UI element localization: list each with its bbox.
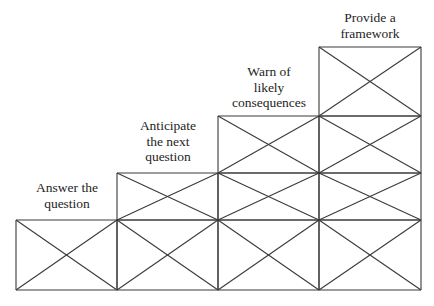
label-line: question — [113, 149, 223, 165]
label-line: likely — [214, 80, 324, 96]
step-label-anticipate-the-next-question: Anticipate the next question — [113, 118, 223, 165]
label-line: question — [12, 196, 122, 212]
label-line: Warn of — [214, 64, 324, 80]
staircase-diagram: Answer the question Anticipate the next … — [0, 0, 434, 306]
label-line: Provide a — [315, 10, 425, 26]
label-line: Anticipate — [113, 118, 223, 134]
label-line: framework — [315, 26, 425, 42]
step-label-warn-of-likely-consequences: Warn of likely consequences — [214, 64, 324, 111]
label-line: consequences — [214, 95, 324, 111]
label-line: the next — [113, 134, 223, 150]
step-label-answer-the-question: Answer the question — [12, 180, 122, 211]
step-label-provide-a-framework: Provide a framework — [315, 10, 425, 41]
label-line: Answer the — [12, 180, 122, 196]
